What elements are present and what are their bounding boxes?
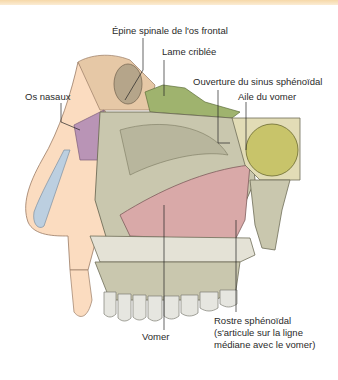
label-lame-criblee: Lame criblée [162,46,216,58]
label-epine-spinale: Épine spinale de l'os frontal [112,25,228,37]
label-rostre-line3: médiane avec le vomer) [214,339,315,351]
label-rostre-line2: (s'articule sur la ligne [214,327,303,339]
label-vomer: Vomer [142,331,169,343]
label-ouverture-sinus: Ouverture du sinus sphénoïdal [193,76,322,88]
label-os-nasaux: Os nasaux [25,91,70,103]
label-rostre-line1: Rostre sphénoïdal [214,315,291,327]
label-aile-vomer: Aile du vomer [238,91,296,103]
